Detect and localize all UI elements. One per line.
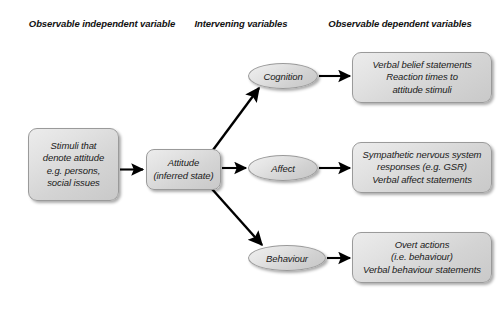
node-cognition-label: Cognition <box>263 71 302 82</box>
node-affect-output: Sympathetic nervous system responses (e.… <box>352 142 492 193</box>
node-behaviour-output-label: Overt actions (i.e. behaviour) Verbal be… <box>359 239 485 276</box>
node-cognition-output: Verbal belief statements Reaction times … <box>352 52 492 103</box>
node-affect: Affect <box>248 155 318 181</box>
node-attitude: Attitude (inferred state) <box>146 149 221 190</box>
attitude-model-diagram: Observable independent variable Interven… <box>0 0 501 309</box>
edge-attitude-to-behaviour <box>212 189 262 245</box>
node-attitude-label: Attitude (inferred state) <box>149 157 217 182</box>
edge-attitude-to-cognition <box>213 88 259 150</box>
node-behaviour-label: Behaviour <box>266 253 308 264</box>
node-affect-label: Affect <box>271 163 295 174</box>
node-cognition: Cognition <box>248 63 318 89</box>
node-affect-output-label: Sympathetic nervous system responses (e.… <box>359 149 486 186</box>
node-cognition-output-label: Verbal belief statements Reaction times … <box>368 59 475 96</box>
node-stimuli-label: Stimuli that denote attitude e.g. person… <box>39 140 108 190</box>
column-heading-independent-variable: Observable independent variable <box>22 18 182 30</box>
node-stimuli: Stimuli that denote attitude e.g. person… <box>28 128 119 201</box>
column-heading-intervening-variables: Intervening variables <box>186 18 296 30</box>
column-heading-dependent-variables: Observable dependent variables <box>310 18 490 30</box>
node-behaviour-output: Overt actions (i.e. behaviour) Verbal be… <box>352 232 492 283</box>
node-behaviour: Behaviour <box>248 245 326 271</box>
